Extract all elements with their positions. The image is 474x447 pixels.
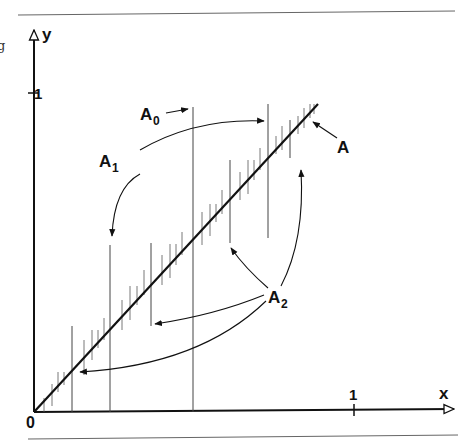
svg-text:A: A bbox=[140, 105, 152, 124]
arrow-a0 bbox=[166, 109, 188, 113]
arrow-a2-to-1 bbox=[80, 301, 266, 372]
fine-staircase-ticks bbox=[44, 104, 314, 412]
arrow-a1-left bbox=[112, 174, 140, 236]
x-tick-label: 1 bbox=[349, 386, 357, 403]
label-a2: A 2 bbox=[268, 288, 288, 311]
top-rule bbox=[18, 11, 455, 15]
edge-fragment-text: g bbox=[0, 38, 5, 53]
label-a0: A 0 bbox=[140, 105, 160, 128]
arrow-a2-to-3 bbox=[231, 248, 268, 288]
label-a: A bbox=[337, 138, 349, 157]
origin-label: 0 bbox=[26, 414, 35, 431]
arrow-a2-to-2 bbox=[155, 295, 264, 324]
x-axis-label: x bbox=[439, 384, 449, 403]
svg-text:1: 1 bbox=[112, 161, 119, 175]
diagonal-line-a bbox=[34, 104, 318, 412]
bottom-rule bbox=[28, 435, 458, 439]
svg-text:A: A bbox=[99, 152, 111, 171]
axes: y x 1 1 0 bbox=[26, 25, 454, 431]
arrow-a bbox=[313, 122, 337, 138]
y-tick-label: 1 bbox=[34, 85, 42, 102]
arrow-a2-to-4 bbox=[281, 170, 302, 286]
svg-text:A: A bbox=[268, 288, 280, 307]
staircase-diagram: g y x 1 1 0 bbox=[0, 0, 474, 447]
svg-text:A: A bbox=[337, 138, 349, 157]
label-a1: A 1 bbox=[99, 152, 119, 175]
y-axis-label: y bbox=[42, 25, 52, 44]
annotation-arrows bbox=[80, 109, 337, 372]
svg-text:2: 2 bbox=[281, 297, 288, 311]
x-axis bbox=[34, 409, 454, 412]
svg-text:0: 0 bbox=[153, 114, 160, 128]
